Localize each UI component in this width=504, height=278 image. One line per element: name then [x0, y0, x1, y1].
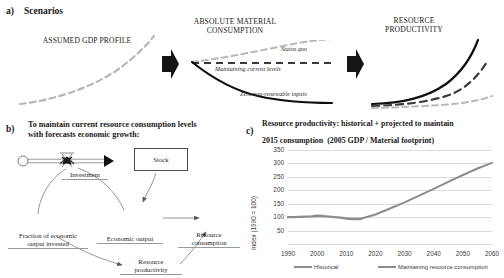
- node-resource-consumption-line2: consumption: [178, 239, 240, 248]
- panel-b-title-line1: To maintain current resource consumption…: [28, 120, 243, 130]
- chart-legend-item: Maintaining resource consumption: [378, 264, 488, 270]
- node-investment-label: Investment: [62, 171, 108, 180]
- node-economic-output-label: Economic output: [97, 235, 163, 244]
- caption-resource-productivity: RESOURCE PRODUCTIVITY: [372, 16, 456, 35]
- panel-c-title-line1: Resource productivity: historical + proj…: [262, 119, 494, 129]
- panel-b-title-line2: with forecasts economic growth:: [28, 130, 243, 140]
- node-stock: Stock: [134, 148, 188, 171]
- curve-label-maintaining-current-levels: Maintaining current levels: [215, 65, 281, 72]
- node-resource-productivity-line2: productivity: [120, 266, 182, 275]
- panel-c-letter: c): [246, 126, 253, 136]
- caption-absolute-material-consumption: ABSOLUTE MATERIAL CONSUMPTION: [180, 17, 290, 36]
- node-fraction-line1: Fraction of economic: [8, 232, 88, 240]
- chart-resource-productivity-timeseries: Index (1990 = 100) 50100150200250300350 …: [246, 140, 495, 278]
- chart-assumed-gdp: [14, 22, 166, 112]
- node-stock-label: Stock: [153, 156, 168, 164]
- node-fraction-line2: output invested: [8, 240, 88, 249]
- node-resource-consumption-line1: Resource: [178, 231, 240, 239]
- panel-a-letter: a): [6, 6, 14, 16]
- chart-legend-swatch: [378, 266, 396, 268]
- panel-b-letter: b): [6, 124, 14, 134]
- chart-absolute-material-consumption: [186, 40, 336, 112]
- chart-legend: HistoricalMaintaining resource consumpti…: [246, 140, 495, 278]
- chart-legend-swatch: [294, 266, 312, 268]
- right-arrow-icon-2: [344, 47, 366, 81]
- curve-label-status-quo: Status quo: [281, 45, 307, 52]
- node-resource-productivity-line1: Resource: [120, 258, 182, 266]
- right-arrow-icon-1: [159, 47, 181, 81]
- panel-a-title: Scenarios: [24, 6, 63, 16]
- curve-label-zero-non-renewable-inputs: Zero non-renewable inputs: [240, 90, 307, 97]
- chart-legend-label: Maintaining resource consumption: [398, 264, 488, 270]
- chart-legend-label: Historical: [314, 264, 338, 270]
- chart-resource-productivity: [370, 38, 494, 112]
- chart-legend-item: Historical: [294, 264, 338, 270]
